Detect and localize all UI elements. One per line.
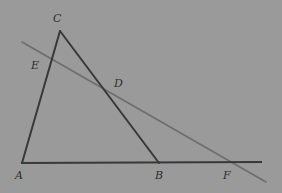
vertex-label-E: E xyxy=(31,60,39,71)
geometry-canvas xyxy=(0,0,282,193)
vertex-label-D: D xyxy=(114,78,123,89)
segment-AF-baseline xyxy=(21,162,262,163)
vertex-label-A: A xyxy=(15,170,23,181)
vertex-label-B: B xyxy=(155,170,163,181)
vertex-label-F: F xyxy=(223,170,231,181)
segment-CB xyxy=(60,31,159,163)
segment-AC xyxy=(22,31,60,163)
vertex-label-C: C xyxy=(53,13,61,24)
geometry-figure: C E D A B F xyxy=(0,0,282,193)
transversal-line-EDF xyxy=(22,42,266,182)
